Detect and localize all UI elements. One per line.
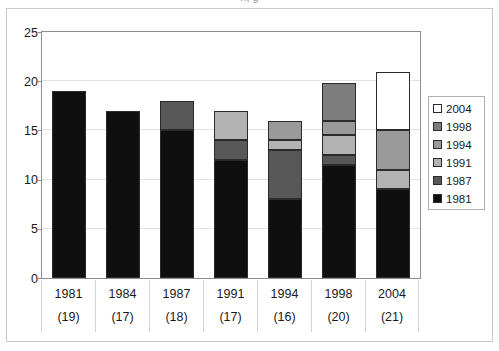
legend-swatch-icon [433,104,442,113]
x-tick-sublabel: (20) [312,310,365,324]
legend-item-1994[interactable]: 1994 [433,136,485,155]
clipped-title-sliver: n, g [0,0,499,7]
legend-swatch-icon [433,176,442,185]
bar-segment-1994-1987 [268,150,302,199]
x-tick-sublabel: (17) [204,310,257,324]
bar-segment-1994-1994 [268,121,302,141]
bar-segment-1998-1981 [322,165,356,278]
legend-item-label: 2004 [446,102,472,116]
legend-item-label: 1987 [446,174,472,188]
bar-segment-2004-1991 [376,170,410,190]
y-tick-label: 20 [8,76,38,89]
bar-segment-1994-1991 [268,140,302,150]
x-tick-label: 1994 [258,287,311,301]
bar-segment-2004-1994 [376,130,410,169]
bar-1987 [160,101,194,278]
y-axis: 0510152025 [2,31,38,279]
legend-item-1998[interactable]: 1998 [433,118,485,137]
legend-item-1991[interactable]: 1991 [433,154,485,173]
x-axis-cell-1994: 1994(16) [257,280,311,332]
x-tick-label: 2004 [366,287,418,301]
y-tick-label: 5 [8,223,38,236]
bar-1991 [214,111,248,278]
x-tick-label: 1991 [204,287,257,301]
bar-segment-1998-1987 [322,155,356,165]
bar-segment-1981-1981 [52,91,86,278]
bar-1984 [106,111,140,278]
bar-segment-1994-1981 [268,199,302,278]
legend-item-1981[interactable]: 1981 [433,190,485,209]
y-tick-label: 25 [8,27,38,40]
bar-segment-1991-1981 [214,160,248,278]
legend-swatch-icon [433,194,442,203]
bar-1994 [268,121,302,278]
bar-segment-1998-1998 [322,83,356,120]
bar-segment-1998-1994 [322,121,356,136]
x-axis-cell-1981: 1981(19) [41,280,95,332]
legend-swatch-icon [433,158,442,167]
x-tick-sublabel: (18) [150,310,203,324]
legend-swatch-icon [433,122,442,131]
legend-swatch-icon [433,140,442,149]
y-tick-label: 10 [8,174,38,187]
legend-item-label: 1981 [446,192,472,206]
chart-legend: 200419981994199119871981 [428,96,485,210]
bar-segment-1991-1991 [214,111,248,141]
legend-item-label: 1998 [446,120,472,134]
clipped-title-text: n, g [0,0,499,3]
legend-item-label: 1991 [446,156,472,170]
x-tick-sublabel: (21) [366,310,418,324]
x-tick-label: 1984 [96,287,149,301]
bars-layer [42,32,420,278]
bar-1998 [322,83,356,278]
bar-segment-1998-1991 [322,135,356,155]
bar-segment-1987-1981 [160,130,194,278]
x-axis-cell-1991: 1991(17) [203,280,257,332]
bar-segment-2004-1981 [376,189,410,278]
bar-segment-1984-1981 [106,111,140,278]
bar-1981 [52,91,86,278]
x-tick-label: 1981 [42,287,95,301]
y-tick-label: 15 [8,125,38,138]
legend-item-label: 1994 [446,138,472,152]
legend-item-2004[interactable]: 2004 [433,100,485,119]
legend-item-1987[interactable]: 1987 [433,172,485,191]
bar-2004 [376,72,410,278]
x-tick-label: 1998 [312,287,365,301]
x-tick-sublabel: (16) [258,310,311,324]
x-tick-label: 1987 [150,287,203,301]
x-axis-cell-1998: 1998(20) [311,280,365,332]
x-tick-sublabel: (17) [96,310,149,324]
bar-segment-1987-1987 [160,101,194,131]
x-axis-label-table: 1981(19)1984(17)1987(18)1991(17)1994(16)… [41,280,421,332]
x-axis-cell-1984: 1984(17) [95,280,149,332]
y-tick-label: 0 [8,273,38,286]
x-axis-cell-1987: 1987(18) [149,280,203,332]
x-axis-cell-2004: 2004(21) [365,280,419,332]
bar-segment-2004-2004 [376,72,410,130]
bar-segment-1991-1987 [214,140,248,160]
x-tick-sublabel: (19) [42,310,95,324]
